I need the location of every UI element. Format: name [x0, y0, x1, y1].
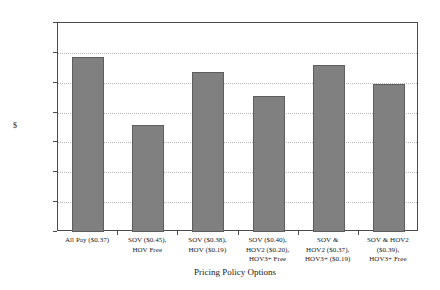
y-tick-mark — [53, 231, 57, 232]
gridline — [58, 202, 417, 203]
x-tick-label-line: SOV & HOV2 — [350, 236, 426, 246]
chart-figure: $ 70006000500040003000200010000 All Pay … — [0, 0, 440, 290]
plot-area — [57, 22, 418, 231]
gridline — [58, 83, 417, 84]
x-axis-title: Pricing Policy Options — [0, 267, 440, 277]
x-tick-label-line: HOV3+ Free — [350, 255, 426, 265]
bar — [72, 57, 104, 232]
bar — [132, 125, 164, 232]
x-tick-mark — [238, 231, 239, 235]
bar — [253, 96, 285, 232]
bar — [313, 65, 345, 232]
bar — [373, 84, 405, 232]
gridline — [58, 113, 417, 114]
x-tick-label-line: ($0.39), — [350, 246, 426, 256]
x-tick-mark — [177, 231, 178, 235]
gridline — [58, 172, 417, 173]
x-tick-mark — [298, 231, 299, 235]
x-tick-label: SOV & HOV2($0.39),HOV3+ Free — [350, 236, 426, 265]
x-tick-mark — [358, 231, 359, 235]
gridline — [58, 142, 417, 143]
bar — [192, 72, 224, 232]
x-tick-mark — [117, 231, 118, 235]
x-axis-title-text: Pricing Policy Options — [194, 267, 276, 277]
y-axis-title: $ — [13, 121, 17, 130]
gridline — [58, 53, 417, 54]
